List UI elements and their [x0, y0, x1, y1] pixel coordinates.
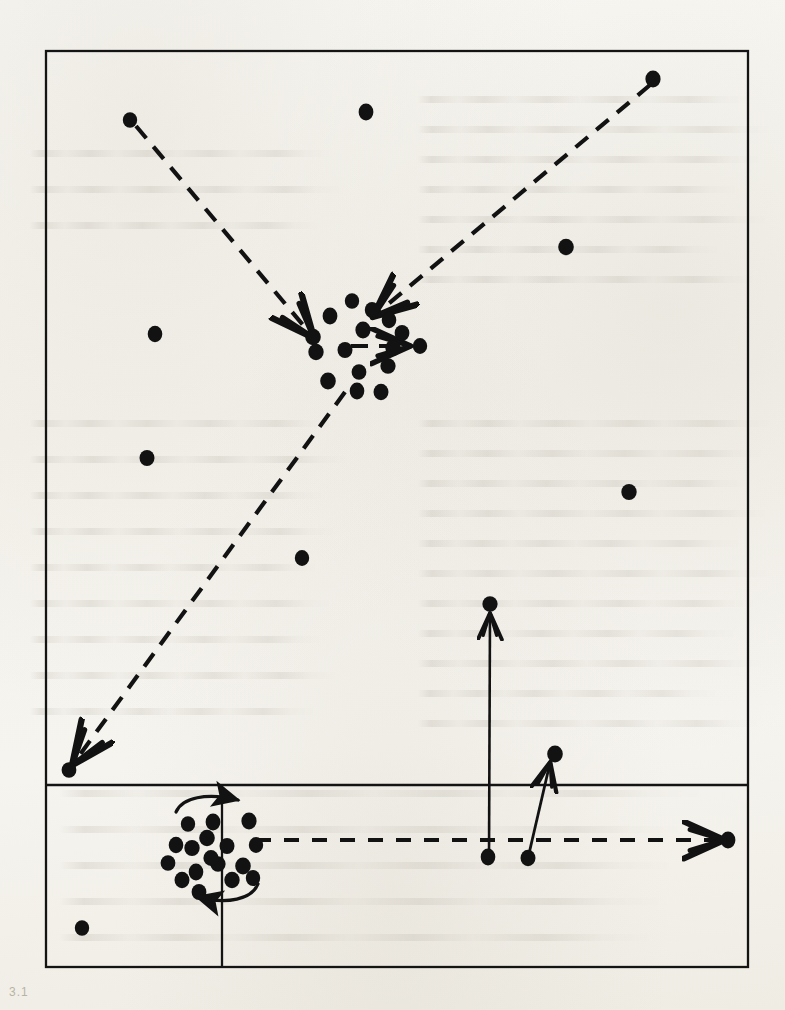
figure-page: 3.1: [0, 0, 785, 1010]
data-point: [192, 884, 207, 900]
data-point: [295, 550, 309, 566]
data-point: [359, 104, 374, 121]
data-point: [547, 746, 563, 763]
data-point: [365, 302, 379, 318]
data-point: [621, 484, 636, 500]
data-point: [181, 816, 195, 831]
data-point: [308, 344, 323, 360]
data-point: [374, 384, 389, 401]
arrow-solid-vertical-up: [489, 614, 490, 857]
data-point: [220, 838, 235, 854]
data-point: [338, 342, 353, 358]
data-point: [206, 814, 221, 831]
arrow-solid-diagonal-up-right: [528, 763, 550, 858]
data-point: [385, 340, 400, 356]
data-point: [413, 338, 427, 354]
data-point: [558, 239, 574, 256]
data-point: [169, 837, 184, 853]
data-point: [350, 383, 365, 400]
data-point: [521, 850, 536, 867]
data-point: [320, 373, 336, 390]
data-point: [323, 308, 338, 325]
data-point: [148, 326, 163, 342]
data-point: [140, 450, 155, 466]
data-point: [246, 870, 260, 886]
data-point: [355, 322, 370, 339]
data-point: [199, 830, 215, 847]
data-point: [645, 71, 660, 88]
series-upper-scatter: [62, 71, 661, 867]
data-point: [175, 872, 190, 889]
caption-mark: 3.1: [9, 985, 29, 999]
data-point: [224, 872, 239, 888]
data-point: [184, 840, 199, 856]
arrow-ne-dashed-into-cluster: [374, 85, 650, 316]
data-point: [380, 358, 395, 373]
data-point: [721, 832, 736, 849]
data-point: [382, 312, 397, 328]
data-point: [189, 864, 204, 881]
data-point: [481, 849, 496, 866]
scatter-diagram-svg: [0, 0, 785, 1010]
solid-arrows-group: [489, 614, 550, 858]
outer-frame: [46, 51, 748, 967]
data-point: [123, 112, 137, 127]
arrow-curved-top-clockwise: [176, 796, 238, 812]
dashed-arrows-group: [73, 85, 723, 840]
arrow-nw-dashed-into-cluster: [136, 126, 313, 337]
data-point: [161, 855, 176, 871]
arrow-cluster-to-sw-dashed: [73, 392, 345, 764]
data-point: [352, 364, 367, 380]
data-point: [395, 325, 410, 341]
data-point: [305, 329, 321, 346]
data-point: [249, 837, 263, 853]
data-point: [203, 850, 218, 866]
data-point: [482, 596, 497, 611]
series-lower-cluster: [161, 813, 264, 900]
data-point: [75, 920, 89, 935]
data-point: [62, 762, 77, 778]
data-points-layer: [62, 71, 736, 936]
frame-group: [46, 51, 748, 967]
data-point: [241, 813, 256, 830]
data-point: [345, 293, 359, 308]
